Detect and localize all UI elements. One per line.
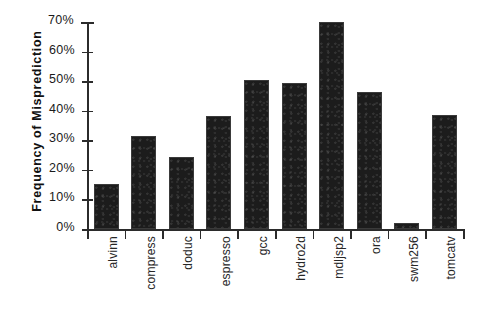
y-tick-40: 40% <box>82 111 93 113</box>
bar-doduc <box>169 157 194 229</box>
bar-espresso <box>206 116 231 229</box>
x-tick-0 <box>87 229 89 239</box>
bar-hydro2d <box>282 83 307 229</box>
y-tick-20: 20% <box>82 170 93 172</box>
y-tick-70: 70% <box>81 22 94 24</box>
x-tick-6 <box>313 229 315 239</box>
x-tick-2 <box>162 229 164 239</box>
x-label-swm256: swm256 <box>407 236 421 282</box>
bar-mdljsp2 <box>319 22 344 229</box>
x-label-espresso: espresso <box>219 236 233 286</box>
bar-tomcatv <box>432 115 457 229</box>
y-tick-label-0: 0% <box>56 220 75 234</box>
x-label-doduc: doduc <box>181 236 195 270</box>
x-tick-1 <box>125 229 127 239</box>
x-label-hydro2d: hydro2d <box>294 236 308 281</box>
y-tick-label-70: 70% <box>48 13 74 27</box>
y-tick-label-50: 50% <box>49 72 75 86</box>
x-tick-4 <box>237 229 239 239</box>
y-tick-label-10: 10% <box>49 190 75 204</box>
x-tick-8 <box>388 229 390 239</box>
bar-compress <box>131 136 156 229</box>
bar-chart-figure: Frequency of Misprediction 70% 60% 50% 4… <box>0 0 477 315</box>
y-tick-label-30: 30% <box>49 131 75 145</box>
x-label-tomcatv: tomcatv <box>444 236 458 279</box>
y-tick-10: 10% <box>82 199 93 201</box>
x-label-mdljsp2: mdljsp2 <box>332 236 346 279</box>
x-tick-9 <box>425 229 427 239</box>
x-tick-3 <box>200 229 202 239</box>
bar-gcc <box>244 80 269 229</box>
x-label-alvinn: alvinn <box>106 236 120 269</box>
x-tick-5 <box>275 229 277 239</box>
bar-alvinn <box>94 184 119 229</box>
y-tick-label-20: 20% <box>49 161 75 175</box>
bar-ora <box>357 92 382 229</box>
y-tick-50: 50% <box>82 81 93 83</box>
x-label-ora: ora <box>369 236 383 254</box>
y-tick-60: 60% <box>82 52 93 54</box>
y-tick-label-40: 40% <box>49 102 75 116</box>
x-tick-7 <box>350 229 352 239</box>
plot-area: 70% 60% 50% 40% 30% 20% 10% 0% <box>87 22 463 229</box>
x-label-compress: compress <box>144 236 158 290</box>
x-label-gcc: gcc <box>256 236 270 255</box>
y-tick-30: 30% <box>82 140 93 142</box>
x-tick-10 <box>463 229 465 239</box>
bar-swm256 <box>394 223 419 229</box>
y-axis-title: Frequency of Misprediction <box>26 14 48 229</box>
y-tick-label-60: 60% <box>49 43 75 57</box>
